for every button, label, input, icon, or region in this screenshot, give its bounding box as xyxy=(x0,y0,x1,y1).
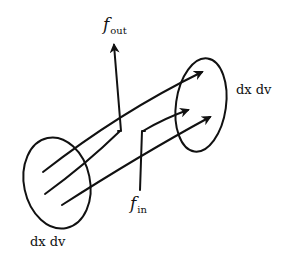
diagram-svg xyxy=(0,0,299,260)
flow-arrow-top xyxy=(43,72,202,172)
phase-space-flux-diagram: fout fin dx dv dx dv xyxy=(0,0,299,260)
f-out-arrow xyxy=(114,45,121,131)
label-right-volume: dx dv xyxy=(236,82,271,97)
label-f-in: fin xyxy=(130,193,147,213)
label-left-volume: dx dv xyxy=(30,234,65,249)
label-f-out: fout xyxy=(103,14,127,34)
right-volume-ellipse xyxy=(170,55,233,155)
left-volume-ellipse xyxy=(15,131,99,235)
f-in-line xyxy=(140,131,145,190)
flow-arrow-middle-end xyxy=(143,110,188,131)
